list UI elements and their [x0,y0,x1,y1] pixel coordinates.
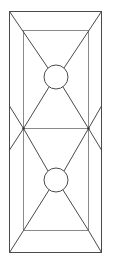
side-left-upper [10,106,24,129]
diag-corner-bottom-right [89,231,102,253]
panel-diagram [0,0,113,267]
side-left-lower [10,129,24,151]
diag-top-left [10,12,49,69]
inner-frame [24,31,89,231]
diag-mid-left-up [24,87,50,129]
junction-right [87,127,89,129]
top-circle [44,65,68,89]
diag-top-right [64,12,102,69]
diag-mid-left-down [24,129,49,172]
bottom-circle [44,168,68,192]
diag-bottom-right [63,190,89,231]
side-right-lower [89,129,102,151]
diag-bottom-left [24,190,50,231]
side-right-upper [89,106,102,129]
diag-mid-right-up [63,87,89,129]
diag-mid-right-down [64,129,89,172]
junction-left [22,127,24,129]
diag-corner-bottom-left [10,231,24,253]
